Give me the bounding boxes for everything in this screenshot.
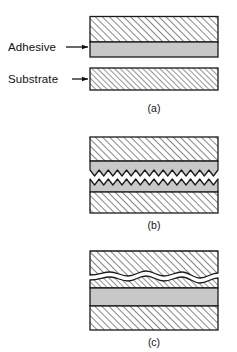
adhesive-label: Adhesive: [8, 41, 56, 53]
panel-b-caption: (b): [148, 219, 161, 231]
panel-c-caption: (c): [148, 336, 160, 348]
figure-container: Adhesive Substrate (a) (b): [0, 0, 237, 352]
panel-a-upper-substrate: [90, 17, 218, 43]
panel-b-lower-substrate: [90, 192, 218, 213]
panel-a-upper-adhesive: [90, 42, 218, 57]
failure-modes-diagram: Adhesive Substrate (a) (b): [0, 0, 237, 352]
panel-a-caption: (a): [148, 102, 161, 114]
panel-a-lower-substrate: [90, 68, 218, 90]
substrate-label: Substrate: [8, 73, 58, 85]
panel-c-lower-substrate: [90, 306, 218, 330]
panel-b-lower-adhesive: [90, 179, 218, 192]
panel-c-adhesive: [90, 288, 218, 306]
panel-b-upper-substrate: [90, 137, 218, 161]
